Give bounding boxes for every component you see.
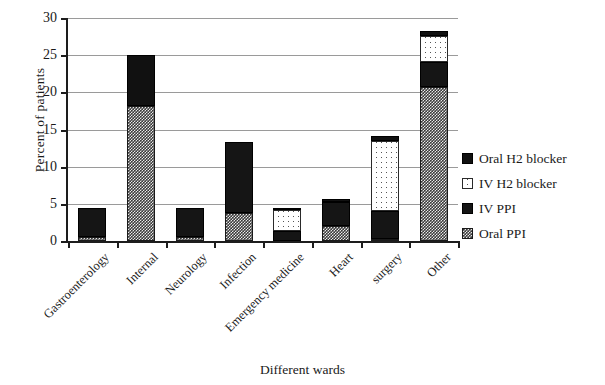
y-tick-label: 0 xyxy=(50,233,57,249)
chart-legend: Oral H2 blockerIV H2 blockerIV PPIOral P… xyxy=(462,146,605,246)
x-tick-label-text: surgery xyxy=(369,250,406,287)
x-tick-mark xyxy=(312,241,314,248)
bar-segment-oral-ppi xyxy=(420,87,448,241)
x-tick-mark xyxy=(458,241,460,248)
y-tick-label: 10 xyxy=(43,159,57,175)
bar-segment-oral-ppi xyxy=(127,106,155,241)
y-tick-mark xyxy=(61,204,68,206)
legend-item-oral-ppi: Oral PPI xyxy=(462,221,605,246)
x-tick-label: Internal xyxy=(124,250,162,288)
bar-infection xyxy=(225,142,253,241)
legend-label: Oral H2 blocker xyxy=(479,152,567,166)
legend-swatch-icon xyxy=(462,178,473,189)
bar-segment-oral-ppi xyxy=(371,239,399,241)
x-tick-label: Infection xyxy=(217,250,260,293)
x-tick-label: Neurology xyxy=(162,250,210,298)
bar-segment-iv-h2-blocker xyxy=(273,210,301,232)
bar-segment-oral-ppi xyxy=(78,237,106,241)
bar-segment-oral-ppi xyxy=(225,213,253,241)
x-tick-mark xyxy=(409,241,411,248)
bar-segment-iv-ppi xyxy=(225,142,253,213)
y-tick-label: 15 xyxy=(43,122,57,138)
bar-segment-oral-h2-blocker xyxy=(127,55,155,106)
x-tick-mark xyxy=(263,241,265,248)
bar-segment-oral-ppi xyxy=(176,237,204,241)
y-tick-mark xyxy=(61,18,68,20)
bar-surgery xyxy=(371,136,399,241)
bar-emergency-medicine xyxy=(273,208,301,241)
legend-item-iv-h2-blocker: IV H2 blocker xyxy=(462,171,605,196)
x-tick-mark xyxy=(117,241,119,248)
x-tick-label-text: Gastroenterology xyxy=(41,250,113,322)
x-tick-mark xyxy=(361,241,363,248)
legend-item-iv-ppi: IV PPI xyxy=(462,196,605,221)
plot-area: 051015202530 GastroenterologyInternalNeu… xyxy=(66,18,458,243)
legend-label: IV H2 blocker xyxy=(479,177,557,191)
x-tick-label-text: Internal xyxy=(124,250,162,288)
legend-item-oral-h2-blocker: Oral H2 blocker xyxy=(462,146,605,171)
legend-swatch-icon xyxy=(462,228,473,239)
legend-swatch-icon xyxy=(462,153,473,164)
bar-segment-iv-h2-blocker xyxy=(420,36,448,62)
y-tick-mark xyxy=(61,167,68,169)
bar-chart-figure: Percent of patients 051015202530 Gastroe… xyxy=(0,0,605,385)
x-tick-label-text: Other xyxy=(423,250,454,281)
x-tick-label: surgery xyxy=(369,250,406,287)
y-tick-label: 30 xyxy=(43,10,57,26)
bar-segment-iv-ppi xyxy=(371,211,399,239)
y-tick-label: 25 xyxy=(43,47,57,63)
x-tick-label: Gastroenterology xyxy=(41,250,113,322)
bar-segment-iv-ppi xyxy=(273,231,301,241)
bar-neurology xyxy=(176,208,204,241)
y-tick-mark xyxy=(61,241,68,243)
x-tick-mark xyxy=(68,241,70,248)
y-tick-mark xyxy=(61,55,68,57)
x-tick-label: Other xyxy=(423,250,454,281)
bar-segment-iv-h2-blocker xyxy=(371,141,399,212)
x-tick-mark xyxy=(166,241,168,248)
legend-label: Oral PPI xyxy=(479,227,526,241)
legend-swatch-icon xyxy=(462,203,473,214)
legend-label: IV PPI xyxy=(479,202,516,216)
y-tick-label: 20 xyxy=(43,84,57,100)
bar-segment-oral-ppi xyxy=(322,226,350,241)
x-tick-label-text: Infection xyxy=(217,250,260,293)
y-tick-mark xyxy=(61,92,68,94)
x-tick-label-text: Neurology xyxy=(162,250,210,298)
bar-segment-iv-ppi xyxy=(176,208,204,237)
bar-gastroenterology xyxy=(78,208,106,241)
x-axis-title: Different wards xyxy=(0,362,605,378)
x-tick-label-text: Heart xyxy=(326,250,356,280)
bar-other xyxy=(420,31,448,241)
bar-internal xyxy=(127,55,155,241)
x-tick-mark xyxy=(214,241,216,248)
bar-segment-iv-ppi xyxy=(322,202,350,227)
gridline xyxy=(68,18,458,19)
bar-segment-iv-ppi xyxy=(420,62,448,87)
bar-heart xyxy=(322,199,350,241)
bar-segment-iv-ppi xyxy=(78,208,106,237)
x-tick-label: Heart xyxy=(326,250,356,280)
y-tick-label: 5 xyxy=(50,196,57,212)
y-tick-mark xyxy=(61,130,68,132)
